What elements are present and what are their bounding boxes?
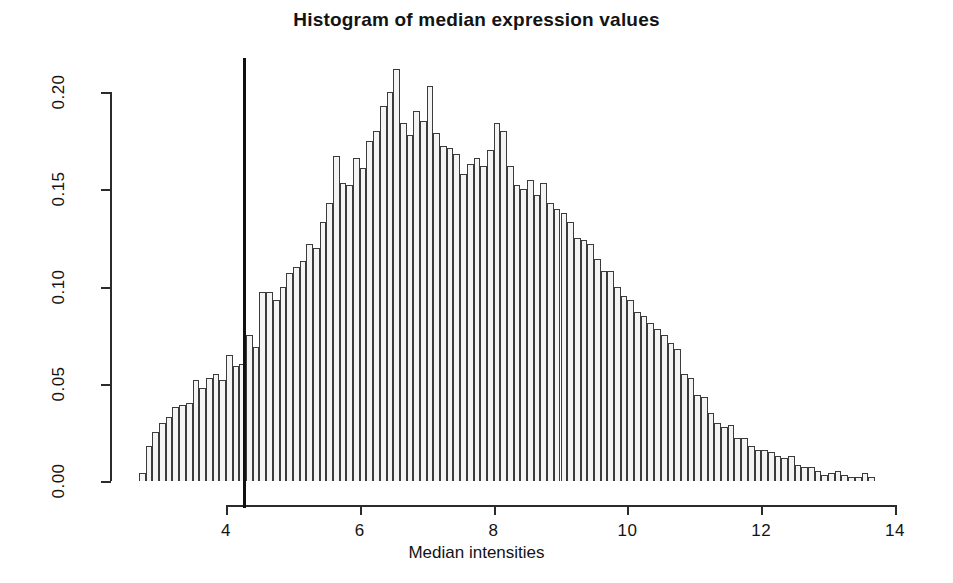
plot-area: 0.000.050.100.150.20468101214	[0, 0, 953, 583]
histogram-bar	[721, 427, 728, 481]
histogram-bar	[688, 378, 695, 481]
y-tick-mark	[101, 481, 111, 483]
histogram-figure: Histogram of median expression values 0.…	[0, 0, 953, 583]
x-axis-label: Median intensities	[0, 543, 953, 563]
histogram-bar	[634, 312, 641, 481]
histogram-bar	[768, 452, 775, 481]
histogram-bar	[273, 300, 280, 481]
histogram-bar	[453, 154, 460, 481]
histogram-bar	[226, 355, 233, 481]
histogram-bar	[420, 121, 427, 481]
histogram-bar	[286, 273, 293, 481]
histogram-bar	[795, 465, 802, 481]
histogram-bar	[527, 180, 534, 481]
histogram-bar	[540, 183, 547, 481]
histogram-bar	[293, 267, 300, 481]
histogram-bar	[179, 405, 186, 481]
x-tick-mark	[360, 505, 362, 515]
histogram-bar	[494, 123, 501, 481]
histogram-bar	[393, 69, 400, 481]
histogram-bar	[467, 164, 474, 481]
histogram-bar	[172, 407, 179, 481]
histogram-bar	[561, 213, 568, 481]
histogram-bar	[781, 458, 788, 481]
histogram-bar	[647, 323, 654, 481]
x-tick-label: 4	[186, 521, 266, 541]
histogram-bar	[668, 343, 675, 481]
histogram-bar	[206, 378, 213, 481]
histogram-bar	[641, 316, 648, 481]
histogram-bar	[828, 473, 835, 481]
x-tick-label: 14	[855, 521, 935, 541]
x-axis-line	[226, 505, 895, 507]
histogram-bar	[821, 475, 828, 481]
histogram-bar	[266, 292, 273, 481]
x-tick-mark	[895, 505, 897, 515]
histogram-bar	[547, 203, 554, 481]
histogram-bar	[139, 473, 146, 481]
histogram-bar	[313, 248, 320, 481]
y-tick-label: 0.20	[48, 63, 70, 121]
histogram-bar	[333, 156, 340, 481]
y-tick-label: 0.15	[48, 160, 70, 218]
histogram-bar	[621, 296, 628, 481]
histogram-bar	[400, 123, 407, 481]
histogram-bar	[607, 271, 614, 481]
x-tick-mark	[761, 505, 763, 515]
histogram-bar	[554, 209, 561, 481]
histogram-bar	[440, 146, 447, 481]
histogram-bar	[574, 238, 581, 481]
y-tick-label: 0.10	[48, 258, 70, 316]
histogram-bar	[380, 106, 387, 481]
histogram-bar	[326, 203, 333, 481]
y-tick-label: 0.05	[48, 355, 70, 413]
histogram-bar	[360, 168, 367, 481]
histogram-bar	[253, 347, 260, 481]
histogram-bar	[186, 403, 193, 481]
histogram-bar	[320, 222, 327, 481]
histogram-bar	[387, 92, 394, 481]
histogram-bar	[848, 477, 855, 481]
histogram-bar	[507, 166, 514, 481]
histogram-bar	[340, 183, 347, 481]
histogram-bar	[373, 131, 380, 481]
x-tick-label: 8	[454, 521, 534, 541]
histogram-bar	[788, 456, 795, 481]
histogram-bar	[514, 185, 521, 481]
histogram-bar	[841, 475, 848, 481]
histogram-bar	[246, 335, 253, 481]
histogram-bar	[815, 471, 822, 481]
histogram-bar	[801, 467, 808, 481]
histogram-bar	[353, 158, 360, 481]
histogram-bar	[741, 438, 748, 481]
histogram-bar	[581, 240, 588, 481]
histogram-bar	[259, 292, 266, 481]
histogram-bar	[835, 471, 842, 481]
histogram-bar	[166, 417, 173, 481]
histogram-bar	[587, 244, 594, 481]
histogram-bar	[868, 477, 875, 481]
x-tick-label: 6	[320, 521, 400, 541]
histogram-bar	[146, 446, 153, 481]
histogram-bar	[681, 374, 688, 481]
histogram-bar	[474, 158, 481, 481]
histogram-bar	[734, 438, 741, 481]
histogram-bar	[755, 450, 762, 481]
histogram-bar	[433, 133, 440, 481]
histogram-bar	[280, 287, 287, 482]
histogram-bar	[674, 349, 681, 481]
x-tick-mark	[226, 505, 228, 515]
histogram-bar	[407, 135, 414, 481]
histogram-bar	[714, 423, 721, 481]
histogram-bar	[500, 131, 507, 481]
histogram-bar	[427, 86, 434, 481]
histogram-bar	[728, 425, 735, 481]
histogram-bar	[855, 477, 862, 481]
histogram-bars	[0, 0, 953, 583]
histogram-bar	[808, 467, 815, 481]
histogram-bar	[460, 174, 467, 481]
histogram-bar	[654, 329, 661, 481]
x-tick-mark	[627, 505, 629, 515]
y-tick-mark	[101, 384, 111, 386]
histogram-bar	[601, 271, 608, 481]
